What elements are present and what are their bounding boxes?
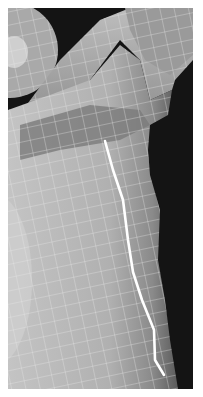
mesh-viewport xyxy=(8,8,193,389)
mesh-render xyxy=(8,8,193,389)
